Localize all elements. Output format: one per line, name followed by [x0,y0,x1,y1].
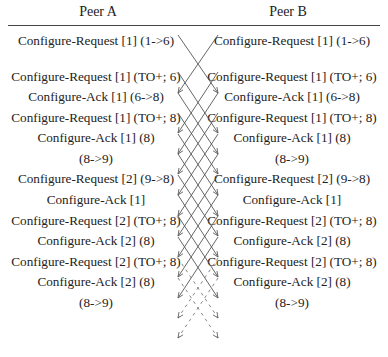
message-arrows [0,0,388,357]
